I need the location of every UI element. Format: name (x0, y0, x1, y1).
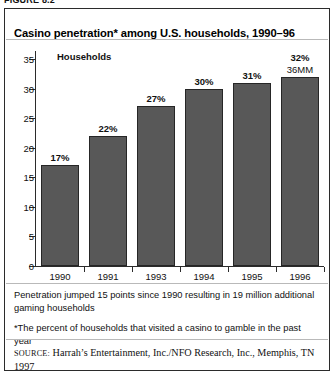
footnote-asterisk: *The percent of households that visited … (14, 322, 319, 347)
x-axis-tick-label: 1994 (180, 271, 228, 282)
footnote-primary: Penetration jumped 15 points since 1990 … (14, 289, 319, 314)
source-keyword: SOURCE: (14, 349, 50, 358)
y-axis-tick-label: 0 (29, 261, 34, 272)
series-label: Households (57, 51, 111, 62)
bar-value-label: 31% (228, 70, 276, 81)
bar-annotation-label: 36MM (276, 64, 324, 75)
y-axis-tick-label: 30 (23, 83, 34, 94)
x-axis-tick (324, 267, 325, 272)
x-axis-tick-label: 1996 (276, 271, 324, 282)
figure-caption: FIGURE 8.2 (4, 0, 55, 5)
bar (41, 165, 78, 266)
bar (137, 106, 174, 266)
bar-value-label: 27% (132, 93, 180, 104)
title-divider (6, 39, 328, 40)
figure-frame: Casino penetration* among U.S. household… (4, 8, 330, 371)
y-axis-tick-label: 10 (23, 201, 34, 212)
x-axis-tick-label: 1991 (84, 271, 132, 282)
bar (89, 136, 126, 266)
y-axis-tick-label: 5 (29, 231, 34, 242)
y-axis-tick-label: 25 (23, 113, 34, 124)
bar (185, 89, 222, 266)
bar-value-label: 17% (36, 152, 84, 163)
y-axis-tick-label: 20 (23, 142, 34, 153)
bar-value-label: 22% (84, 123, 132, 134)
x-axis-tick-label: 1990 (36, 271, 84, 282)
bar (281, 77, 318, 266)
y-axis-tick-label: 15 (23, 172, 34, 183)
source-text: Harrah’s Entertainment, Inc./NFO Researc… (14, 347, 314, 372)
bar-chart-plot: Households 0510152025303517%199022%19912… (5, 43, 331, 281)
x-axis-tick-label: 1995 (228, 271, 276, 282)
bar-value-label: 30% (180, 76, 228, 87)
chart-title: Casino penetration* among U.S. household… (14, 27, 321, 39)
bar-value-label: 32% (276, 52, 324, 63)
source-divider (6, 339, 328, 340)
x-axis-tick-label: 1993 (132, 271, 180, 282)
bar (233, 83, 270, 266)
footnote-divider (6, 283, 328, 284)
y-axis-tick-label: 35 (23, 54, 34, 65)
source-line: SOURCE: Harrah’s Entertainment, Inc./NFO… (14, 346, 319, 373)
